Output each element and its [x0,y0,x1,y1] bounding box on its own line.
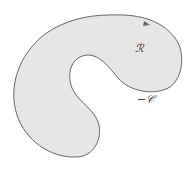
region-label: ℛ [135,42,145,55]
region-shape [14,15,182,157]
curve-label: −𝒞 [137,93,157,106]
region-diagram: ℛ −𝒞 [0,0,190,173]
